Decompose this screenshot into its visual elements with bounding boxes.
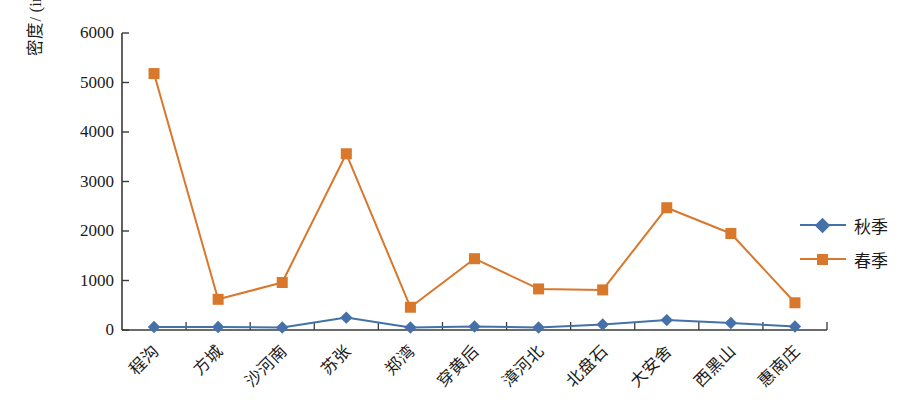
data-point — [404, 321, 416, 333]
data-point — [212, 321, 224, 333]
plot-area — [0, 0, 919, 418]
data-point — [149, 68, 160, 79]
data-point — [661, 202, 672, 213]
legend-swatch — [800, 250, 846, 268]
legend-item-春季[interactable]: 春季 — [800, 242, 915, 276]
data-point — [468, 320, 480, 332]
data-point — [341, 148, 352, 159]
data-point — [597, 284, 608, 295]
legend-label: 春季 — [846, 247, 888, 272]
data-point — [533, 283, 544, 294]
data-point — [661, 314, 673, 326]
legend-item-秋季[interactable]: 秋季 — [800, 208, 915, 242]
square-marker-icon — [817, 254, 828, 265]
series-line-春季 — [154, 74, 795, 308]
data-point — [789, 297, 800, 308]
data-point — [789, 320, 801, 332]
data-point — [725, 228, 736, 239]
data-point — [405, 302, 416, 313]
data-point — [725, 317, 737, 329]
data-point — [213, 294, 224, 305]
data-point — [469, 253, 480, 264]
data-point — [532, 321, 544, 333]
legend-label: 秋季 — [846, 213, 888, 238]
diamond-marker-icon — [815, 218, 831, 234]
data-point — [276, 321, 288, 333]
data-point — [148, 321, 160, 333]
legend-swatch — [800, 216, 846, 234]
data-point — [340, 311, 352, 323]
chart-legend: 秋季春季 — [800, 208, 915, 276]
density-line-chart: 密度/ (ind/m2) 0100020003000400050006000 程… — [0, 0, 919, 418]
data-point — [277, 277, 288, 288]
data-point — [596, 318, 608, 330]
